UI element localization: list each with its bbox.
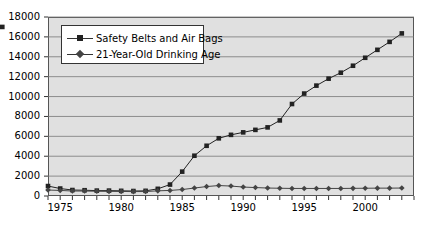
y-tick-label: 16000 bbox=[0, 32, 40, 42]
y-tick-label: 0 bbox=[0, 191, 40, 201]
y-tick-label: 4000 bbox=[0, 151, 40, 161]
y-tick-label: 14000 bbox=[0, 52, 40, 62]
legend-label-drinking-age: 21-Year-Old Drinking Age bbox=[93, 49, 220, 60]
chart-legend: Safety Belts and Air Bags 21-Year-Old Dr… bbox=[61, 25, 204, 64]
y-axis-ticks bbox=[44, 17, 48, 196]
series-drinking-age bbox=[45, 183, 404, 195]
y-tick-label: 2000 bbox=[0, 171, 40, 181]
legend-label-safety-belts: Safety Belts and Air Bags bbox=[93, 33, 223, 44]
x-tick-label: 1980 bbox=[101, 203, 141, 213]
legend-marker-diamond-icon bbox=[67, 49, 93, 60]
y-tick-label: 6000 bbox=[0, 131, 40, 141]
legend-item-drinking-age: 21-Year-Old Drinking Age bbox=[67, 46, 198, 62]
x-tick-label: 1985 bbox=[162, 203, 202, 213]
legend-item-safety-belts: Safety Belts and Air Bags bbox=[67, 30, 198, 46]
x-tick-label: 1995 bbox=[284, 203, 324, 213]
y-tick-label: 18000 bbox=[0, 12, 40, 22]
x-axis-ticks bbox=[48, 196, 414, 200]
x-tick-label: 2000 bbox=[345, 203, 385, 213]
y-tick-label: 8000 bbox=[0, 111, 40, 121]
y-tick-label: 12000 bbox=[0, 72, 40, 82]
y-tick-label: 10000 bbox=[0, 92, 40, 102]
chart-container: 0200040006000800010000120001400016000180… bbox=[0, 0, 426, 233]
legend-marker-square-icon bbox=[67, 33, 93, 44]
x-tick-label: 1990 bbox=[223, 203, 263, 213]
x-tick-label: 1975 bbox=[40, 203, 80, 213]
